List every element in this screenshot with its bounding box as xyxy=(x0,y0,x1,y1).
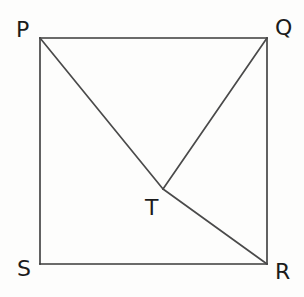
vertex-label-t: T xyxy=(145,197,158,219)
vertex-label-p: P xyxy=(16,19,29,41)
figure-canvas xyxy=(0,0,304,297)
segment-pt xyxy=(40,38,163,189)
figure-line-group xyxy=(40,38,267,264)
geometry-figure: P Q R S T xyxy=(0,0,304,297)
vertex-label-r: R xyxy=(275,261,290,283)
vertex-label-s: S xyxy=(17,258,31,280)
vertex-label-q: Q xyxy=(275,17,292,39)
segment-qt xyxy=(163,38,267,189)
segment-tr xyxy=(163,189,267,264)
